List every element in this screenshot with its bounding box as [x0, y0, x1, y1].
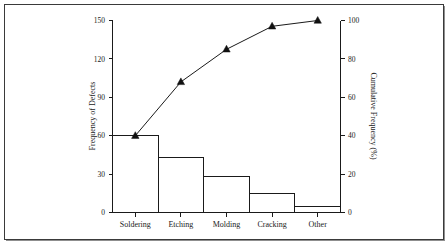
bar-series	[113, 136, 341, 213]
cumulative-line	[135, 21, 317, 136]
bar-other	[295, 206, 341, 212]
right-tick-label-20: 20	[348, 170, 356, 179]
pareto-chart: 0 30 60 90 120 150 Frequency of Defects …	[0, 0, 448, 244]
category-label-other: Other	[309, 220, 328, 229]
right-axis-title: Cumulative Frequency (%)	[369, 72, 378, 159]
pareto-chart-screenshot: 0 30 60 90 120 150 Frequency of Defects …	[0, 0, 448, 244]
left-axis-ticks	[109, 21, 113, 213]
right-axis-ticks	[341, 21, 345, 213]
left-tick-label-0: 0	[101, 208, 105, 217]
right-tick-label-40: 40	[348, 131, 356, 140]
right-tick-label-100: 100	[348, 16, 360, 25]
left-tick-label-60: 60	[98, 131, 106, 140]
cumulative-marker-etching	[177, 78, 184, 85]
right-tick-label-0: 0	[348, 208, 352, 217]
cumulative-marker-other	[314, 17, 321, 24]
category-label-molding: Molding	[213, 220, 241, 229]
right-tick-label-60: 60	[348, 93, 356, 102]
right-tick-label-80: 80	[348, 55, 356, 64]
bar-etching	[158, 158, 204, 213]
bar-molding	[204, 177, 250, 213]
bottom-axis-ticks	[135, 213, 317, 218]
left-tick-label-120: 120	[94, 55, 106, 64]
bar-soldering	[113, 136, 159, 213]
left-tick-label-150: 150	[94, 16, 106, 25]
left-axis-title: Frequency of Defects	[88, 82, 97, 151]
category-label-etching: Etching	[168, 220, 193, 229]
left-tick-label-90: 90	[98, 93, 106, 102]
category-label-cracking: Cracking	[257, 220, 286, 229]
left-tick-label-30: 30	[98, 170, 106, 179]
cumulative-markers	[132, 17, 322, 139]
cumulative-marker-molding	[223, 45, 230, 52]
category-label-soldering: Soldering	[120, 220, 151, 229]
bar-cracking	[249, 193, 295, 212]
